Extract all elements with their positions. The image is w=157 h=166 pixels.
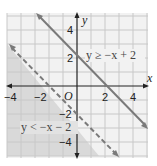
origin-label: O: [64, 89, 73, 103]
y-tick-label: −2: [59, 108, 72, 120]
inequality-graph: x y O −4 −2 2 4 4 2 −2 −4 y ≥ −x + 2 y <…: [0, 0, 157, 166]
x-tick-label: 2: [102, 91, 108, 103]
x-tick-label: −4: [4, 91, 17, 103]
x-tick-label: 4: [130, 91, 136, 103]
y-tick-label: 2: [67, 52, 73, 64]
y-axis-label: y: [81, 13, 88, 27]
x-axis-label: x: [146, 71, 153, 85]
y-tick-label: −4: [59, 136, 72, 148]
y-tick-label: 4: [67, 24, 73, 36]
inequality-label-dashed: y < −x − 2: [21, 120, 71, 134]
inequality-label-solid: y ≥ −x + 2: [86, 48, 136, 62]
x-tick-label: −2: [34, 91, 47, 103]
